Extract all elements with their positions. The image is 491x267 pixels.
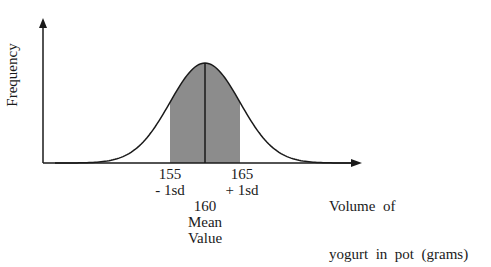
label-minus-1sd: 155 - 1sd: [148, 166, 192, 198]
y-axis-arrow-icon: [39, 18, 47, 28]
y-axis-label: Frequency: [2, 20, 22, 130]
label-plus-1sd: 165 + 1sd: [219, 166, 265, 198]
label-mean: 160 Mean Value: [180, 198, 230, 246]
x-axis-label: Volume of yogurt in pot (grams): [329, 166, 468, 267]
